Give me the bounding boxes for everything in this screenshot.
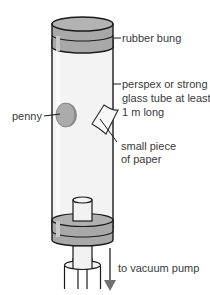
label-penny: penny: [12, 110, 42, 122]
label-rubber-bung: rubber bung: [122, 32, 181, 44]
label-tube-line1: perspex or strong: [122, 78, 208, 90]
label-vacuum-pump: to vacuum pump: [118, 262, 199, 274]
penny-icon: [56, 103, 77, 127]
tube-highlight: [56, 42, 60, 227]
label-tube-line3: 1 m long: [122, 106, 164, 118]
rubber-bung-top: [52, 17, 113, 53]
label-paper-line2: of paper: [121, 153, 162, 165]
vacuum-connector: [65, 246, 101, 289]
label-tube-line2: glass tube at least: [122, 92, 210, 104]
down-arrow-icon: [104, 248, 116, 291]
label-paper-line1: small piece: [121, 140, 176, 152]
vacuum-tube-diagram: rubber bung perspex or strong glass tube…: [0, 0, 210, 295]
